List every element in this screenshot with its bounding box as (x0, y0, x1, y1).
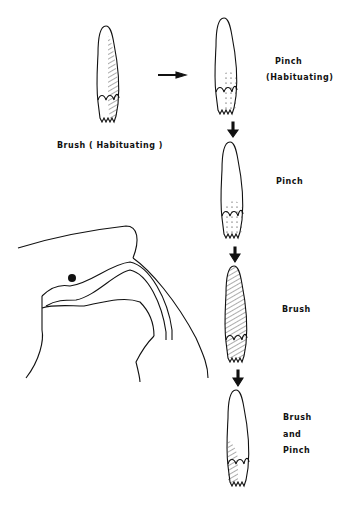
paw-brush-habituating (97, 26, 119, 122)
label-brush-and-pinch-1: Brush (283, 414, 312, 422)
label-brush: Brush (282, 306, 311, 314)
label-brush-and-pinch-3: Pinch (283, 447, 310, 455)
paw-brush-and-pinch (227, 390, 249, 486)
brain-outline (18, 226, 208, 382)
label-brush-and-pinch-2: and (283, 431, 301, 439)
paw-brush (225, 266, 247, 362)
label-pinch-habituating-2: (Habituating) (266, 74, 333, 82)
label-pinch-habituating-1: Pinch (275, 58, 302, 66)
label-pinch: Pinch (276, 178, 303, 186)
paw-pinch (221, 142, 243, 238)
arrow-right-icon (158, 72, 186, 78)
recording-site-dot (68, 274, 76, 282)
paw-pinch-habituating (215, 18, 237, 114)
label-brush-habituating: Brush ( Habituating ) (57, 142, 163, 150)
